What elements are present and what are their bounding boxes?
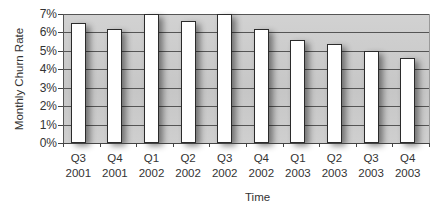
x-tick-label-quarter: Q2 bbox=[170, 151, 206, 166]
x-tick-label-quarter: Q4 bbox=[97, 151, 133, 166]
y-tick-label: 4% bbox=[40, 62, 57, 76]
x-tick-label-year: 2001 bbox=[97, 166, 133, 181]
bar bbox=[364, 51, 379, 143]
x-tick-label-quarter: Q4 bbox=[390, 151, 426, 166]
bar bbox=[107, 29, 122, 143]
x-tick-label-quarter: Q1 bbox=[134, 151, 170, 166]
x-tick-mark bbox=[63, 143, 64, 147]
x-tick-label-year: 2003 bbox=[390, 166, 426, 181]
x-tick-label-year: 2003 bbox=[353, 166, 389, 181]
x-tick-mark bbox=[392, 143, 393, 147]
x-tick-label: Q42003 bbox=[390, 151, 426, 181]
y-tick-mark bbox=[58, 51, 63, 52]
x-tick-mark bbox=[246, 143, 247, 147]
y-axis-title: Monthly Churn Rate bbox=[2, 14, 36, 144]
x-tick-mark bbox=[136, 143, 137, 147]
x-tick-label-quarter: Q2 bbox=[317, 151, 353, 166]
y-tick-label: 2% bbox=[40, 99, 57, 113]
x-tick-label: Q42002 bbox=[243, 151, 279, 181]
x-tick-label: Q32002 bbox=[207, 151, 243, 181]
x-tick-label: Q12002 bbox=[134, 151, 170, 181]
x-tick-label-quarter: Q3 bbox=[60, 151, 96, 166]
bar bbox=[327, 44, 342, 144]
x-tick-mark bbox=[319, 143, 320, 147]
y-tick-mark bbox=[58, 106, 63, 107]
y-tick-label: 3% bbox=[40, 81, 57, 95]
x-tick-label-quarter: Q3 bbox=[353, 151, 389, 166]
x-tick-label: Q32001 bbox=[60, 151, 96, 181]
y-tick-label: 1% bbox=[40, 118, 57, 132]
x-tick-label-year: 2002 bbox=[170, 166, 206, 181]
x-tick-label-year: 2002 bbox=[134, 166, 170, 181]
x-axis-title: Time bbox=[245, 191, 270, 203]
bar bbox=[290, 40, 305, 143]
x-tick-mark bbox=[209, 143, 210, 147]
y-tick-mark bbox=[58, 88, 63, 89]
y-axis-title-text: Monthly Churn Rate bbox=[13, 28, 25, 130]
x-tick-label-year: 2002 bbox=[243, 166, 279, 181]
x-tick-label-quarter: Q4 bbox=[243, 151, 279, 166]
bar bbox=[217, 14, 232, 143]
x-tick-mark bbox=[173, 143, 174, 147]
y-tick-label: 6% bbox=[40, 25, 57, 39]
y-tick-mark bbox=[58, 125, 63, 126]
y-tick-label: 5% bbox=[40, 44, 57, 58]
x-tick-label: Q22002 bbox=[170, 151, 206, 181]
x-tick-label: Q32003 bbox=[353, 151, 389, 181]
x-tick-label-quarter: Q3 bbox=[207, 151, 243, 166]
x-tick-mark bbox=[356, 143, 357, 147]
bar bbox=[181, 21, 196, 143]
bar bbox=[254, 29, 269, 143]
bar bbox=[71, 23, 86, 143]
y-tick-label: 0% bbox=[40, 136, 57, 150]
plot-area bbox=[63, 14, 430, 143]
y-axis-line bbox=[63, 14, 64, 144]
x-tick-label-year: 2001 bbox=[60, 166, 96, 181]
x-tick-label-year: 2003 bbox=[280, 166, 316, 181]
x-tick-label-year: 2003 bbox=[317, 166, 353, 181]
x-tick-mark bbox=[283, 143, 284, 147]
x-tick-mark bbox=[100, 143, 101, 147]
y-tick-mark bbox=[58, 69, 63, 70]
y-tick-mark bbox=[58, 32, 63, 33]
y-tick-label: 7% bbox=[40, 7, 57, 21]
x-tick-mark bbox=[429, 143, 430, 147]
bar bbox=[400, 58, 415, 143]
x-tick-label-year: 2002 bbox=[207, 166, 243, 181]
x-tick-label: Q12003 bbox=[280, 151, 316, 181]
x-tick-label: Q42001 bbox=[97, 151, 133, 181]
bar bbox=[144, 14, 159, 143]
gridline bbox=[63, 14, 429, 15]
x-tick-label: Q22003 bbox=[317, 151, 353, 181]
x-tick-label-quarter: Q1 bbox=[280, 151, 316, 166]
y-tick-mark bbox=[58, 14, 63, 15]
